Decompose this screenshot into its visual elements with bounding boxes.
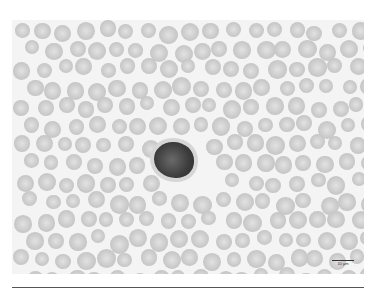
red-blood-cell — [13, 62, 30, 79]
red-blood-cell — [266, 136, 285, 155]
red-blood-cell — [340, 40, 358, 58]
red-blood-cell — [258, 118, 272, 132]
red-blood-cell — [58, 210, 76, 228]
red-blood-cell — [299, 78, 314, 93]
red-blood-cell — [44, 82, 61, 99]
red-blood-cell — [86, 272, 101, 274]
red-blood-cell — [109, 42, 124, 57]
red-blood-cell — [110, 270, 124, 274]
red-blood-cell — [81, 211, 97, 227]
red-blood-cell — [332, 23, 347, 38]
red-blood-cell — [118, 24, 133, 39]
scale-bar: 10 µm — [332, 260, 354, 266]
red-blood-cell — [317, 269, 332, 274]
red-blood-cell — [129, 157, 145, 173]
red-blood-cell — [339, 153, 355, 169]
red-blood-cell — [77, 174, 96, 193]
micrograph: 10 µm — [12, 20, 364, 274]
red-blood-cell — [66, 154, 82, 170]
red-blood-cell — [235, 233, 249, 247]
red-blood-cell — [152, 191, 167, 206]
red-blood-cell — [38, 214, 55, 231]
red-blood-cell — [13, 100, 29, 116]
red-blood-cell — [288, 97, 305, 114]
red-blood-cell — [89, 116, 107, 134]
red-blood-cell — [128, 43, 143, 58]
nucleated-cell — [154, 142, 194, 178]
red-blood-cell — [193, 269, 209, 274]
red-blood-cell — [163, 99, 180, 116]
red-blood-cell — [202, 98, 216, 112]
red-blood-cell — [341, 118, 355, 132]
red-blood-cell — [129, 118, 146, 135]
red-blood-cell — [141, 249, 158, 266]
red-blood-cell — [17, 175, 35, 193]
red-blood-cell — [25, 40, 39, 54]
red-blood-cell — [38, 173, 57, 192]
red-blood-cell — [87, 158, 103, 174]
red-blood-cell — [223, 61, 239, 77]
red-blood-cell — [59, 97, 75, 113]
red-blood-cell — [232, 272, 251, 274]
red-blood-cell — [223, 100, 241, 118]
red-blood-cell — [295, 155, 310, 170]
red-blood-cell — [216, 192, 231, 207]
red-blood-cell — [247, 134, 264, 151]
red-blood-cell — [100, 20, 116, 36]
red-blood-cell — [58, 137, 72, 151]
red-blood-cell — [132, 273, 148, 274]
red-blood-cell — [181, 59, 195, 73]
red-blood-cell — [161, 213, 177, 229]
red-blood-cell — [319, 79, 333, 93]
red-blood-cell — [24, 117, 40, 133]
red-blood-cell — [22, 191, 37, 206]
red-blood-cell — [24, 153, 39, 168]
red-blood-cell — [217, 271, 236, 274]
red-blood-cell — [99, 212, 114, 227]
red-blood-cell — [216, 82, 233, 99]
red-blood-cell — [163, 251, 182, 270]
red-blood-cell — [235, 82, 253, 100]
red-blood-cell — [327, 211, 344, 228]
red-blood-cell — [150, 233, 169, 252]
red-blood-cell — [97, 97, 113, 113]
red-blood-cell — [310, 134, 325, 149]
red-blood-cell — [15, 23, 30, 38]
red-blood-cell — [306, 26, 321, 41]
red-blood-cell — [227, 252, 241, 266]
red-blood-cell — [171, 194, 189, 212]
red-blood-cell — [363, 41, 364, 55]
red-blood-cell — [159, 26, 178, 45]
red-blood-cell — [289, 211, 308, 230]
red-blood-cell — [91, 229, 105, 243]
red-blood-cell — [255, 193, 270, 208]
red-blood-cell — [295, 193, 311, 209]
red-blood-cell — [46, 195, 61, 210]
red-blood-cell — [118, 136, 134, 152]
red-blood-cell — [350, 137, 364, 154]
red-blood-cell — [279, 233, 293, 247]
red-blood-cell — [120, 58, 135, 73]
red-blood-cell — [34, 23, 51, 40]
red-blood-cell — [352, 22, 364, 40]
red-blood-cell — [119, 212, 134, 227]
red-blood-cell — [194, 117, 208, 131]
red-blood-cell — [35, 252, 49, 266]
red-blood-cell — [279, 267, 295, 274]
red-blood-cell — [311, 102, 327, 118]
red-blood-cell — [59, 178, 74, 193]
red-blood-cell — [36, 135, 53, 152]
red-blood-cell — [226, 22, 241, 37]
red-blood-cell — [298, 40, 317, 59]
red-blood-cell — [249, 23, 264, 38]
red-blood-cell — [154, 81, 172, 99]
red-blood-cell — [338, 193, 356, 211]
red-blood-cell — [361, 116, 364, 132]
red-blood-cell — [235, 154, 253, 172]
red-blood-cell — [297, 273, 315, 274]
red-blood-cell — [352, 211, 364, 229]
scale-bar-label: 10 µm — [332, 261, 354, 266]
red-blood-cell — [143, 175, 160, 192]
red-blood-cell — [26, 232, 44, 250]
red-blood-cell — [327, 176, 345, 194]
